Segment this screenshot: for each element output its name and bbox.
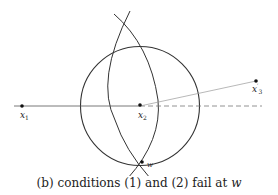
caption-text: (b) conditions (1) and (2) fail at [37, 176, 232, 190]
figure-caption: (b) conditions (1) and (2) fail at w [0, 176, 278, 190]
arc-right [114, 14, 158, 176]
figure-diagram: x1 x2 x′3 w [0, 0, 278, 176]
label-x3prime: x′3 [252, 82, 262, 95]
label-w: w [147, 161, 153, 169]
point-x2 [138, 103, 142, 107]
arc-left [108, 11, 150, 176]
caption-variable: w [231, 176, 241, 190]
label-x1: x1 [20, 110, 29, 121]
label-x2: x2 [138, 110, 147, 121]
point-w [140, 160, 144, 164]
point-x1 [20, 104, 24, 108]
